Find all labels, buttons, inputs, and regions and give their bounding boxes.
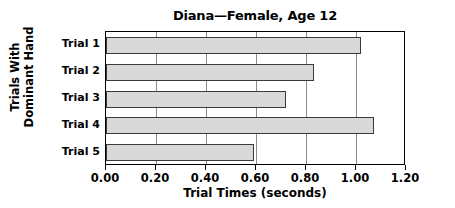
- x-tick-mark: [355, 165, 356, 170]
- plot-area: [105, 31, 405, 165]
- bar-chart: Diana—Female, Age 12 Trials With Dominan…: [0, 0, 455, 208]
- x-axis-title: Trial Times (seconds): [105, 186, 405, 200]
- category-label: Trial 5: [44, 145, 100, 158]
- bar: [106, 117, 374, 134]
- x-tick-mark: [305, 165, 306, 170]
- category-label: Trial 4: [44, 118, 100, 131]
- category-label: Trial 2: [44, 64, 100, 77]
- x-tick-mark: [255, 165, 256, 170]
- bar: [106, 144, 254, 161]
- category-axis-labels: Trial 1Trial 2Trial 3Trial 4Trial 5: [44, 31, 102, 165]
- chart-title: Diana—Female, Age 12: [105, 8, 405, 23]
- x-tick-mark: [405, 165, 406, 170]
- bar: [106, 37, 361, 54]
- category-label: Trial 1: [44, 37, 100, 50]
- y-axis-title: Trials With Dominant Hand: [8, 7, 48, 147]
- x-tick-mark: [205, 165, 206, 170]
- x-tick-mark: [155, 165, 156, 170]
- category-label: Trial 3: [44, 91, 100, 104]
- x-tick-label: 1.20: [375, 171, 435, 185]
- bar: [106, 64, 314, 81]
- y-axis-title-line-2: Dominant Hand: [22, 7, 36, 147]
- y-axis-title-line-1: Trials With: [8, 7, 22, 147]
- bar: [106, 91, 286, 108]
- x-tick-mark: [105, 165, 106, 170]
